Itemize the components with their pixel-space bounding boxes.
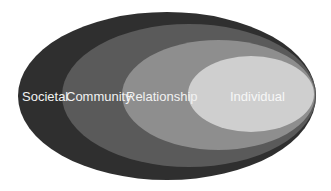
individual-label: Individual [230,89,285,104]
societal-label: Societal [22,89,68,104]
community-label: Community [66,89,132,104]
relationship-label: Relationship [126,89,198,104]
